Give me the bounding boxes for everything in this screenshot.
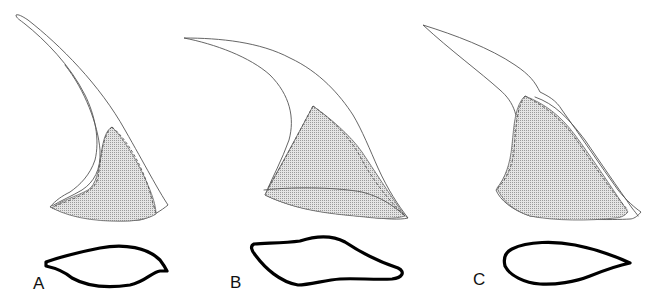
section-a-outline [46, 246, 167, 286]
spine-b-stippled-base [265, 106, 405, 218]
panel-label-c: C [473, 271, 485, 288]
panel-c [423, 25, 641, 284]
panel-label-a: A [33, 275, 44, 292]
panel-b [184, 38, 408, 285]
panel-a [16, 15, 168, 287]
section-b-outline [252, 237, 403, 285]
section-c-outline [504, 242, 630, 284]
panel-label-b: B [230, 274, 241, 291]
figure-plate [0, 0, 656, 306]
